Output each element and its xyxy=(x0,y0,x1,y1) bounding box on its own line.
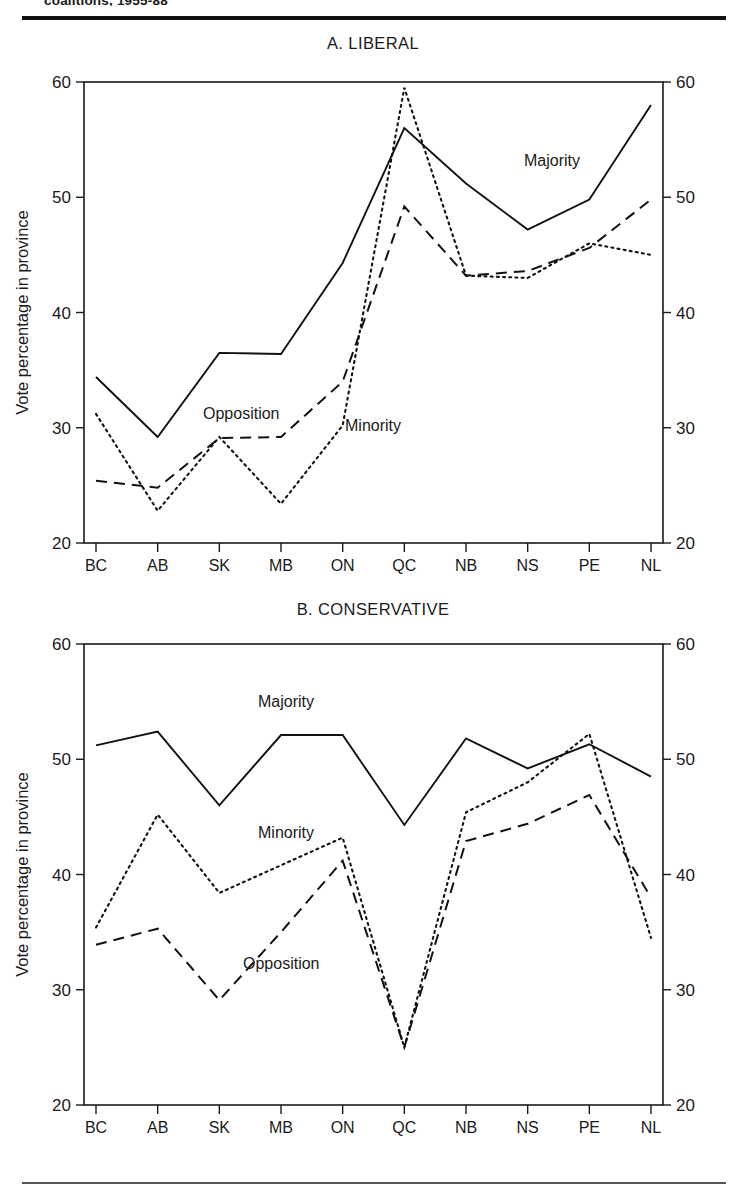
series-annotation-opposition: Opposition xyxy=(203,405,280,422)
y-tick-label-right: 50 xyxy=(676,188,695,207)
panel-b-title: B. CONSERVATIVE xyxy=(0,600,746,619)
x-tick-label-pe: PE xyxy=(579,557,600,574)
y-tick-label-left: 40 xyxy=(52,866,71,885)
bottom-rule-divider xyxy=(22,1182,726,1184)
chart-panel-conservative: B. CONSERVATIVE 20203030404050506060BCAB… xyxy=(0,596,746,1176)
y-tick-label-right: 30 xyxy=(676,981,695,1000)
x-tick-label-sk: SK xyxy=(209,557,231,574)
panel-a-title: A. LIBERAL xyxy=(0,34,746,53)
x-tick-label-sk: SK xyxy=(209,1119,231,1136)
y-tick-label-left: 60 xyxy=(52,635,71,654)
y-tick-label-right: 20 xyxy=(676,1096,695,1115)
series-line-opposition xyxy=(96,200,651,488)
y-tick-label-right: 60 xyxy=(676,73,695,92)
y-tick-label-right: 60 xyxy=(676,635,695,654)
y-tick-label-left: 20 xyxy=(52,534,71,553)
series-annotation-opposition: Opposition xyxy=(243,955,320,972)
conservative-line-chart: 20203030404050506060BCABSKMBONQCNBNSPENL… xyxy=(0,596,746,1176)
running-head: coalitions, 1955-88 xyxy=(44,0,168,6)
x-tick-label-qc: QC xyxy=(392,1119,416,1136)
liberal-line-chart: 20203030404050506060BCABSKMBONQCNBNSPENL… xyxy=(0,26,746,574)
y-axis-label: Vote percentage in province xyxy=(13,772,31,977)
x-tick-label-mb: MB xyxy=(269,1119,293,1136)
y-tick-label-right: 20 xyxy=(676,534,695,553)
x-tick-label-on: ON xyxy=(331,1119,355,1136)
x-tick-label-nl: NL xyxy=(641,1119,662,1136)
series-annotation-minority: Minority xyxy=(345,417,401,434)
y-tick-label-left: 30 xyxy=(52,419,71,438)
x-tick-label-ns: NS xyxy=(517,1119,539,1136)
x-tick-label-ab: AB xyxy=(147,1119,168,1136)
y-tick-label-left: 50 xyxy=(52,188,71,207)
y-tick-label-right: 40 xyxy=(676,866,695,885)
top-rule-divider xyxy=(22,16,726,20)
x-tick-label-ab: AB xyxy=(147,557,168,574)
y-tick-label-left: 20 xyxy=(52,1096,71,1115)
y-tick-label-right: 50 xyxy=(676,750,695,769)
y-tick-label-left: 40 xyxy=(52,304,71,323)
y-tick-label-left: 60 xyxy=(52,73,71,92)
series-line-opposition xyxy=(96,795,651,1047)
x-tick-label-pe: PE xyxy=(579,1119,600,1136)
chart-panel-liberal: A. LIBERAL 20203030404050506060BCABSKMBO… xyxy=(0,26,746,574)
series-line-majority xyxy=(96,732,651,825)
y-axis-label: Vote percentage in province xyxy=(13,210,31,415)
x-tick-label-nl: NL xyxy=(641,557,662,574)
series-annotation-majority: Majority xyxy=(524,152,580,169)
x-tick-label-on: ON xyxy=(331,557,355,574)
y-tick-label-right: 30 xyxy=(676,419,695,438)
x-tick-label-nb: NB xyxy=(455,557,477,574)
series-annotation-majority: Majority xyxy=(258,693,314,710)
y-tick-label-right: 40 xyxy=(676,304,695,323)
x-tick-label-mb: MB xyxy=(269,557,293,574)
x-tick-label-bc: BC xyxy=(85,557,107,574)
series-annotation-minority: Minority xyxy=(258,824,314,841)
figure-page: coalitions, 1955-88 A. LIBERAL 202030304… xyxy=(0,0,746,1195)
y-tick-label-left: 30 xyxy=(52,981,71,1000)
x-tick-label-nb: NB xyxy=(455,1119,477,1136)
x-tick-label-ns: NS xyxy=(517,557,539,574)
x-tick-label-bc: BC xyxy=(85,1119,107,1136)
plot-frame xyxy=(84,644,663,1105)
y-tick-label-left: 50 xyxy=(52,750,71,769)
x-tick-label-qc: QC xyxy=(392,557,416,574)
